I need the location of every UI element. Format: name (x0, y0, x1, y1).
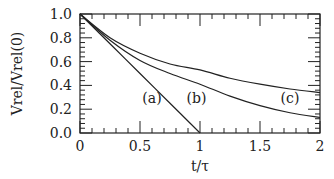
y-tick-label: 0.2 (50, 101, 72, 117)
line-chart: 00.511.520.00.20.40.60.81.0t/τVrel/Vrel(… (0, 0, 334, 179)
x-axis-label: t/τ (191, 158, 209, 174)
y-axis-label: Vrel/Vrel(0) (9, 32, 25, 117)
curve-label: (c) (281, 90, 300, 106)
x-tick-label: 1.5 (249, 138, 271, 154)
x-tick-label: 0.5 (129, 138, 151, 154)
curve-label: (b) (186, 90, 206, 106)
curve-a (80, 14, 200, 133)
y-tick-label: 1.0 (50, 6, 72, 22)
x-tick-label: 2 (316, 138, 325, 154)
y-tick-label: 0.4 (50, 77, 72, 93)
plot-frame (80, 14, 320, 133)
x-tick-label: 0 (76, 138, 85, 154)
y-tick-label: 0.8 (50, 30, 72, 46)
y-tick-label: 0.0 (50, 125, 72, 141)
y-tick-label: 0.6 (50, 54, 72, 70)
x-tick-label: 1 (196, 138, 205, 154)
curve-label: (a) (142, 90, 161, 106)
